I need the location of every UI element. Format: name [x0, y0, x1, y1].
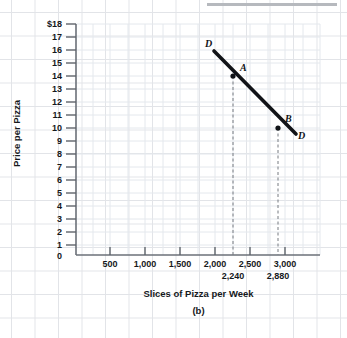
- data-point-a: [230, 73, 235, 78]
- curve-label-d-lower: D: [298, 130, 305, 141]
- chart-screenshot: $18 17 16 15 14 13 12 11 10 9 8 7 6 5 4 …: [0, 0, 347, 338]
- y-tick-label-15: 15: [36, 58, 62, 68]
- y-tick-label-11: 11: [36, 110, 62, 120]
- y-tick-label-13: 13: [36, 84, 62, 94]
- x-annotation-2880: 2,880: [256, 271, 300, 281]
- y-tick-label-0: 0: [36, 251, 62, 261]
- y-tick-label-3: 3: [36, 214, 62, 224]
- y-tick-label-8: 8: [36, 149, 62, 159]
- x-axis-title: Slices of Pizza per Week: [76, 288, 321, 299]
- y-tick-label-16: 16: [36, 45, 62, 55]
- y-axis-ticks: [66, 24, 76, 245]
- y-tick-label-1: 1: [36, 240, 62, 250]
- y-tick-label-7: 7: [36, 162, 62, 172]
- y-tick-label-9: 9: [36, 136, 62, 146]
- data-point-b: [275, 125, 280, 130]
- y-tick-label-18: $18: [36, 19, 62, 29]
- x-annotation-2240: 2,240: [211, 271, 255, 281]
- x-tick-label-3000: 3,000: [263, 259, 307, 269]
- point-label-b: B: [285, 113, 292, 124]
- y-axis-title: Price per Pizza: [11, 89, 22, 179]
- y-tick-label-10: 10: [36, 123, 62, 133]
- y-tick-label-5: 5: [36, 188, 62, 198]
- y-tick-label-14: 14: [36, 71, 62, 81]
- y-tick-label-6: 6: [36, 175, 62, 185]
- y-tick-label-17: 17: [36, 32, 62, 42]
- y-tick-label-12: 12: [36, 97, 62, 107]
- y-tick-label-4: 4: [36, 201, 62, 211]
- figure-caption: (b): [76, 305, 321, 316]
- y-tick-label-2: 2: [36, 227, 62, 237]
- point-label-a: A: [240, 62, 247, 73]
- curve-label-d-upper: D: [205, 38, 212, 49]
- plot-gridlines: [76, 24, 320, 255]
